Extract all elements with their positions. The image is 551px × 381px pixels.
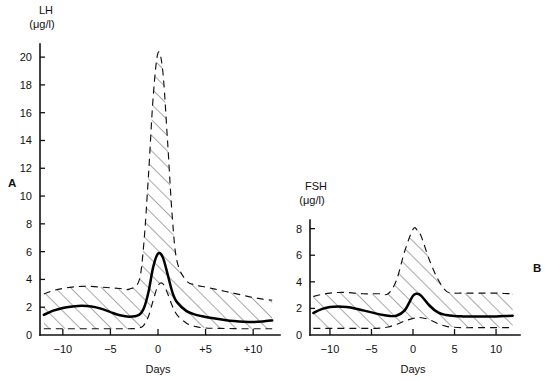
panel-b-x-tick-labels: −10−50510 (321, 343, 503, 355)
x-tick-label: +5 (199, 343, 212, 355)
panel-a-y-tick-labels: 02468101214161820 (20, 51, 32, 341)
y-tick-label: 2 (26, 301, 32, 313)
panel-b-axis-title-line2: (μg/l) (299, 194, 324, 206)
y-tick-label: 18 (20, 79, 32, 91)
x-tick-label: 0 (410, 343, 416, 355)
x-tick-label: −5 (365, 343, 378, 355)
y-tick-label: 2 (296, 302, 302, 314)
panel-b-x-axis-title: Days (400, 363, 426, 375)
panel-a-axis-title-line2: (μg/l) (29, 18, 54, 30)
y-tick-label: 8 (296, 223, 302, 235)
hormone-profile-figure: LH (μg/l) A 02468101214161820 −10−50+5+1… (0, 0, 551, 381)
y-tick-label: 0 (26, 329, 32, 341)
x-tick-label: −10 (54, 343, 73, 355)
panel-a-axis-title-line1: LH (39, 4, 53, 16)
x-tick-label: −10 (321, 343, 340, 355)
y-tick-label: 12 (20, 162, 32, 174)
x-tick-label: −5 (104, 343, 117, 355)
y-tick-label: 6 (296, 249, 302, 261)
y-tick-label: 14 (20, 134, 32, 146)
panel-b-y-tick-labels: 02468 (296, 223, 302, 341)
panel-b-axis-title-line1: FSH (305, 180, 327, 192)
panel-a-label: A (8, 177, 16, 189)
x-tick-label: 5 (451, 343, 457, 355)
y-tick-label: 20 (20, 51, 32, 63)
panel-a-x-tick-labels: −10−50+5+10 (54, 343, 263, 355)
x-tick-label: 0 (155, 343, 161, 355)
y-tick-label: 10 (20, 190, 32, 202)
y-tick-label: 0 (296, 329, 302, 341)
x-tick-label: +10 (244, 343, 263, 355)
panel-b-label: B (533, 262, 541, 274)
y-tick-label: 4 (26, 273, 32, 285)
y-tick-label: 6 (26, 246, 32, 258)
y-tick-label: 16 (20, 107, 32, 119)
y-tick-label: 8 (26, 218, 32, 230)
x-tick-label: 10 (490, 343, 502, 355)
panel-a-x-axis-title: Days (145, 363, 171, 375)
y-tick-label: 4 (296, 276, 302, 288)
